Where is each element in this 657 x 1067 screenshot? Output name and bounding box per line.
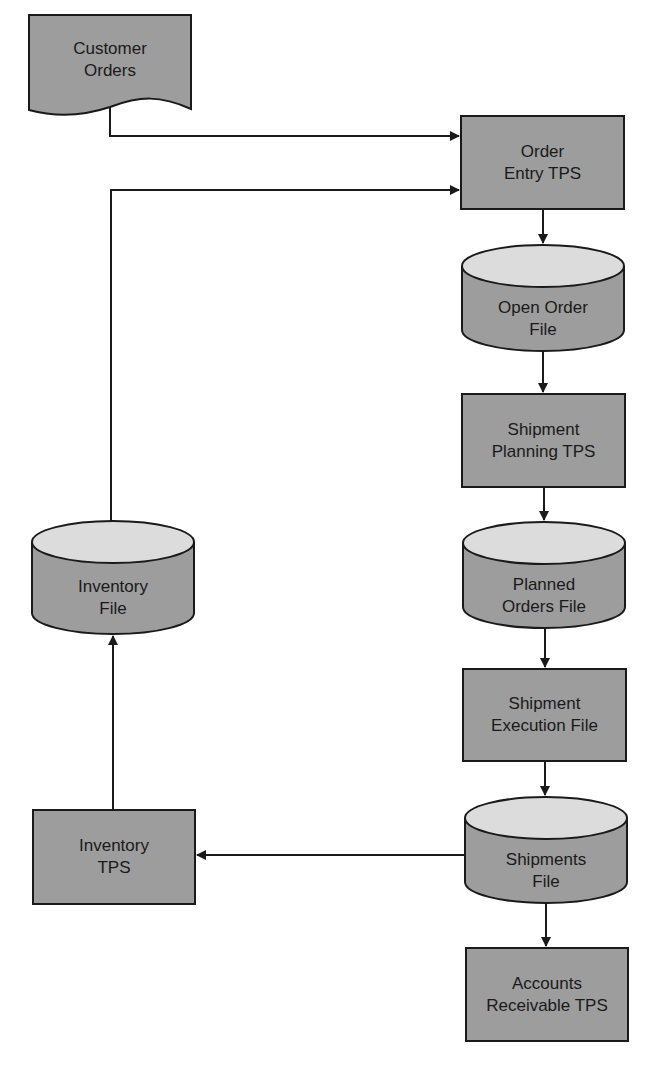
shipment-planning-tps-box (462, 394, 625, 487)
diagram-canvas (0, 0, 657, 1067)
inventory-tps-box (33, 810, 195, 904)
open-order-file-cylinder (462, 245, 624, 351)
customer-orders-document-shape (29, 15, 191, 115)
inventory-file-cylinder (32, 521, 194, 634)
shipments-file-cylinder (465, 797, 627, 903)
shipment-execution-file-box (463, 669, 626, 761)
edge-inventory-file-to-order-entry (111, 190, 459, 521)
planned-orders-file-cylinder (463, 522, 625, 628)
order-entry-tps-box (461, 116, 624, 209)
accounts-receivable-tps-box (466, 948, 628, 1041)
edge-customer-orders-to-order-entry (110, 107, 459, 136)
